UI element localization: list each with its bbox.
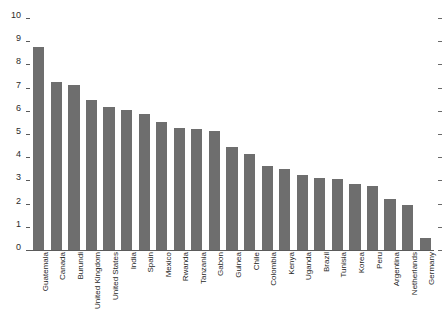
y-axis-tick: 5	[0, 134, 30, 135]
bar[interactable]	[314, 178, 325, 250]
bar-column	[174, 18, 185, 250]
x-axis-label-text: Germany	[428, 252, 436, 285]
y-axis-tick-label: 5	[16, 127, 21, 136]
bar-column	[103, 18, 114, 250]
y-axis-tick-label: 0	[16, 243, 21, 252]
x-axis-label: Canada	[59, 252, 67, 280]
bar[interactable]	[209, 131, 220, 250]
bar-column	[279, 18, 290, 250]
bar[interactable]	[297, 175, 308, 250]
bar[interactable]	[262, 166, 273, 250]
bar[interactable]	[68, 85, 79, 250]
x-axis-label: India	[130, 252, 138, 269]
bar-column	[139, 18, 150, 250]
x-axis-label-text: United States	[112, 252, 120, 300]
bar-column	[420, 18, 431, 250]
x-axis-label-text: Mexico	[165, 252, 173, 277]
y-axis-tick: 0	[0, 250, 30, 251]
x-axis-label-text: Canada	[59, 252, 67, 280]
x-axis-label: United States	[112, 252, 120, 300]
y-axis-tick-label: 7	[16, 81, 21, 90]
y-axis-right-tick-mark	[438, 18, 442, 19]
bar[interactable]	[86, 100, 97, 250]
bar-column	[191, 18, 202, 250]
x-axis-labels: GuatemalaCanadaBurundiUnited KingdomUnit…	[30, 252, 434, 298]
x-axis-label-text: Peru	[376, 252, 384, 269]
bar-column	[51, 18, 62, 250]
bar-column	[297, 18, 308, 250]
y-axis-tick-label: 9	[16, 34, 21, 43]
bar[interactable]	[51, 82, 62, 250]
y-axis-tick-label: 2	[16, 197, 21, 206]
bar[interactable]	[384, 199, 395, 250]
x-axis-label-text: Burundi	[77, 252, 85, 280]
x-axis-label-text: Argentina	[393, 252, 401, 286]
x-axis-label-text: Korea	[358, 252, 366, 273]
y-axis-right-tick-mark	[438, 88, 442, 89]
bar-column	[33, 18, 44, 250]
bar-column	[262, 18, 273, 250]
bar[interactable]	[332, 179, 343, 250]
x-axis-label-text: Guatemala	[42, 252, 50, 291]
bar[interactable]	[156, 122, 167, 250]
x-axis-label-text: Uganda	[305, 252, 313, 280]
bar[interactable]	[121, 110, 132, 250]
x-axis-label-text: Colombia	[270, 252, 278, 286]
bar-column	[209, 18, 220, 250]
x-axis-label: Chile	[253, 252, 261, 270]
x-axis-label: Mexico	[165, 252, 173, 277]
x-axis-baseline	[30, 250, 434, 251]
bar-column	[349, 18, 360, 250]
y-axis-tick-label: 6	[16, 104, 21, 113]
x-axis-label: Colombia	[270, 252, 278, 286]
y-axis-right-tick-mark	[438, 157, 442, 158]
bar[interactable]	[226, 147, 237, 250]
bar-column	[402, 18, 413, 250]
bar-column	[244, 18, 255, 250]
bar[interactable]	[349, 184, 360, 250]
y-axis-right-tick-mark	[438, 180, 442, 181]
bar-column	[156, 18, 167, 250]
x-axis-label-text: Spain	[147, 252, 155, 272]
y-axis-right-tick-mark	[438, 204, 442, 205]
bar-column	[367, 18, 378, 250]
x-axis-label: Gabon	[217, 252, 225, 276]
y-axis-right-tick-mark	[438, 111, 442, 112]
bar[interactable]	[244, 154, 255, 250]
bar[interactable]	[420, 238, 431, 250]
x-axis-label: Germany	[428, 252, 436, 285]
y-axis-tick: 1	[0, 227, 30, 228]
bar-column	[121, 18, 132, 250]
x-axis-label-text: Guinea	[235, 252, 243, 278]
plot-area	[30, 18, 434, 250]
bar[interactable]	[139, 114, 150, 250]
x-axis-label: Rwanda	[182, 252, 190, 281]
y-axis-tick-label: 10	[11, 11, 21, 20]
x-axis-label-text: Brazil	[323, 252, 331, 272]
y-axis-tick: 9	[0, 41, 30, 42]
x-axis-label: Korea	[358, 252, 366, 273]
bar[interactable]	[402, 205, 413, 250]
x-axis-label: Tanzania	[200, 252, 208, 284]
y-axis-tick: 8	[0, 64, 30, 65]
y-axis: 012345678910	[0, 0, 30, 298]
bar[interactable]	[103, 107, 114, 250]
y-axis-right-tick-mark	[438, 64, 442, 65]
bar[interactable]	[174, 128, 185, 250]
x-axis-label: United Kingdom	[94, 252, 102, 309]
bar-column	[332, 18, 343, 250]
x-axis-label: Tunisia	[340, 252, 348, 278]
x-axis-label: Peru	[376, 252, 384, 269]
bar[interactable]	[191, 129, 202, 250]
bar[interactable]	[367, 186, 378, 250]
x-axis-label-text: Netherlands	[411, 252, 419, 295]
x-axis-label-text: Gabon	[217, 252, 225, 276]
bar[interactable]	[33, 47, 44, 250]
x-axis-label-text: India	[130, 252, 138, 269]
y-axis-right-tick-mark	[438, 250, 442, 251]
bar-column	[226, 18, 237, 250]
x-axis-label: Kenya	[288, 252, 296, 275]
y-axis-tick: 6	[0, 111, 30, 112]
x-axis-label: Guatemala	[42, 252, 50, 291]
bar[interactable]	[279, 169, 290, 250]
